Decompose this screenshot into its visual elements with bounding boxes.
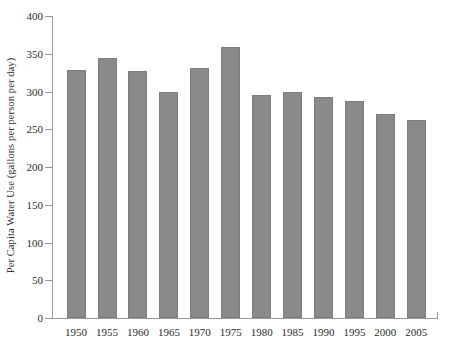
y-axis-tick-label: 50 bbox=[32, 274, 43, 286]
x-axis-tick-label: 2000 bbox=[374, 326, 396, 338]
x-axis-tick-label: 1965 bbox=[158, 326, 180, 338]
x-axis-tick-label: 1975 bbox=[220, 326, 242, 338]
x-axis-tick-label: 1995 bbox=[343, 326, 365, 338]
bar bbox=[314, 97, 333, 318]
bar bbox=[67, 70, 86, 318]
x-axis-end-tick bbox=[437, 312, 438, 319]
x-axis-tick-label: 1960 bbox=[127, 326, 149, 338]
y-axis-tick: 150 bbox=[52, 205, 53, 206]
y-axis-tick-label: 250 bbox=[27, 123, 44, 135]
y-axis-tick: 0 bbox=[52, 318, 53, 319]
x-axis-tick-label: 2005 bbox=[405, 326, 427, 338]
y-axis-tick-mark bbox=[45, 243, 52, 244]
y-axis-tick-mark bbox=[45, 280, 52, 281]
bar bbox=[345, 101, 364, 318]
y-axis-tick-label: 350 bbox=[27, 48, 44, 60]
y-axis-tick-label: 300 bbox=[27, 86, 44, 98]
bar bbox=[98, 58, 117, 318]
x-axis-tick-label: 1990 bbox=[313, 326, 335, 338]
y-axis-tick: 350 bbox=[52, 54, 53, 55]
y-axis-title-text: Per Capita Water Use (gallons per person… bbox=[6, 57, 17, 273]
y-axis-tick-mark bbox=[45, 167, 52, 168]
y-axis-tick: 100 bbox=[52, 243, 53, 244]
y-axis-tick: 400 bbox=[52, 16, 53, 17]
y-axis-tick: 250 bbox=[52, 129, 53, 130]
bar bbox=[407, 120, 426, 318]
y-axis-tick-label: 400 bbox=[27, 10, 44, 22]
bar-chart-figure: Per Capita Water Use (gallons per person… bbox=[0, 0, 457, 348]
bar bbox=[128, 71, 147, 318]
plot-area: 050100150200250300350400 bbox=[52, 16, 437, 318]
y-axis-tick-label: 150 bbox=[27, 199, 44, 211]
y-axis-tick-mark bbox=[45, 205, 52, 206]
bar bbox=[376, 114, 395, 318]
bar bbox=[221, 47, 240, 318]
y-axis-tick: 300 bbox=[52, 92, 53, 93]
x-axis-tick-label: 1980 bbox=[251, 326, 273, 338]
x-axis-tick-label: 1950 bbox=[65, 326, 87, 338]
y-axis-tick-mark bbox=[45, 92, 52, 93]
bar bbox=[190, 68, 209, 318]
x-axis-tick-label: 1970 bbox=[189, 326, 211, 338]
y-axis-tick-mark bbox=[45, 16, 52, 17]
bar bbox=[159, 92, 178, 318]
bar bbox=[252, 95, 271, 318]
x-axis-tick-label: 1955 bbox=[96, 326, 118, 338]
y-axis-tick-label: 0 bbox=[38, 312, 44, 324]
y-axis-tick-label: 100 bbox=[27, 237, 44, 249]
y-axis-title: Per Capita Water Use (gallons per person… bbox=[0, 0, 22, 330]
y-axis-tick-mark bbox=[45, 318, 52, 319]
y-axis-tick-mark bbox=[45, 129, 52, 130]
bar bbox=[283, 92, 302, 319]
y-axis-tick: 200 bbox=[52, 167, 53, 168]
y-axis-tick-label: 200 bbox=[27, 161, 44, 173]
x-axis-tick-label: 1985 bbox=[282, 326, 304, 338]
y-axis-tick: 50 bbox=[52, 280, 53, 281]
x-axis-line bbox=[52, 318, 438, 319]
y-axis-tick-mark bbox=[45, 54, 52, 55]
